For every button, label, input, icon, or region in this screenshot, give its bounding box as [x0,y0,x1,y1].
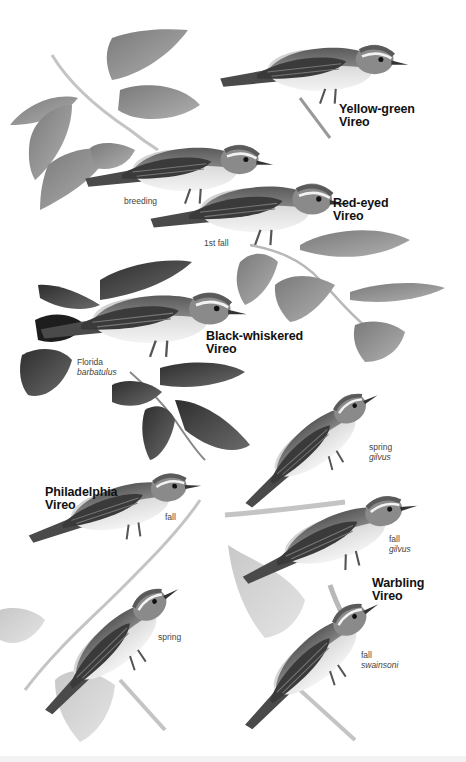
species-name-line2: Vireo [333,210,388,223]
form-line1: fall [165,513,176,523]
form-line1: 1st fall [204,239,229,249]
bird-philadelphia-vireo-fall [22,467,209,559]
form-line2-subspecies: gilvus [389,545,411,555]
form-line2-subspecies: gilvus [369,453,392,463]
species-name-line2: Vireo [45,499,117,512]
form-line1: spring [158,633,181,643]
label-philadelphia-spring: spring [158,633,181,643]
label-philadelphia-fall: fall [165,513,176,523]
label-fall-swainsoni: fall swainsoni [361,651,398,671]
label-black-whiskered-vireo: Black-whiskered Vireo [206,330,303,356]
label-breeding: breeding [124,197,157,207]
label-yellow-green-vireo: Yellow-green Vireo [339,103,415,129]
bird-yellow-green-vireo [220,45,408,104]
page-bottom-edge [0,756,466,762]
label-spring-gilvus: spring gilvus [369,443,392,463]
form-line1: breeding [124,197,157,207]
label-fall-gilvus: fall gilvus [389,535,411,555]
species-name-line2: Vireo [372,590,424,603]
label-warbling-vireo: Warbling Vireo [372,577,424,603]
dark-leaf-branch [20,261,250,460]
species-name-line2: Vireo [206,343,303,356]
species-name-line2: Vireo [339,116,415,129]
label-1st-fall: 1st fall [204,239,229,249]
pale-leaf-left [0,608,45,643]
form-line2-subspecies: swainsoni [361,661,398,671]
label-philadelphia-vireo: Philadelphia Vireo [45,486,117,512]
branch-spring [120,680,165,730]
bird-red-eyed-vireo-1st-fall [151,184,348,246]
form-line2-subspecies: barbatulus [77,368,117,378]
branch-spring-gilvus [225,502,345,515]
label-red-eyed-vireo: Red-eyed Vireo [333,197,388,223]
label-florida-barbatulus: Florida barbatulus [77,358,117,378]
branch-swainsoni [300,690,355,740]
